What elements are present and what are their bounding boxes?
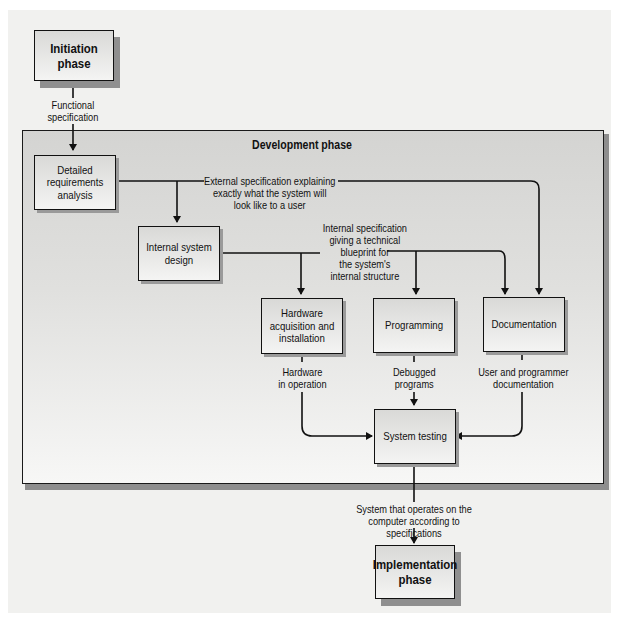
- implementation-phase-label: Implementation phase: [373, 557, 458, 587]
- programming-box: Programming: [373, 298, 455, 353]
- documentation-box: Documentation: [483, 297, 565, 352]
- system-testing-label: System testing: [383, 430, 446, 443]
- internal-spec-label: Internal specification giving a technica…: [310, 222, 420, 282]
- programming-label: Programming: [385, 319, 443, 332]
- docs-output-label: User and programmer documentation: [467, 366, 579, 390]
- requirements-analysis-label: Detailed requirements analysis: [40, 164, 110, 202]
- hardware-output-label: Hardware in operation: [262, 366, 342, 390]
- system-testing-box: System testing: [374, 409, 456, 464]
- requirements-analysis-box: Detailed requirements analysis: [34, 155, 116, 210]
- initiation-phase-box: Initiation phase: [34, 30, 114, 81]
- implementation-phase-box: Implementation phase: [375, 545, 455, 599]
- functional-spec-label: Functional specification: [23, 99, 123, 123]
- programs-output-label: Debugged programs: [374, 366, 454, 390]
- hardware-box: Hardware acquisition and installation: [261, 298, 343, 354]
- internal-design-label: Internal system design: [144, 241, 214, 266]
- hardware-label: Hardware acquisition and installation: [267, 307, 337, 345]
- external-spec-label: External specification explaining exactl…: [190, 175, 350, 211]
- internal-design-box: Internal system design: [138, 226, 220, 281]
- final-output-label: System that operates on the computer acc…: [334, 503, 494, 539]
- initiation-phase-label: Initiation phase: [40, 41, 109, 71]
- documentation-label: Documentation: [491, 318, 556, 331]
